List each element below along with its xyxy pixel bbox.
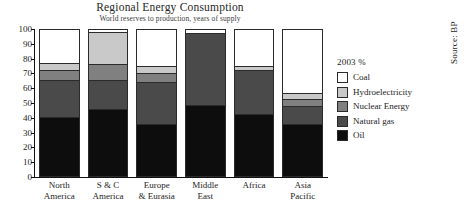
legend-swatch bbox=[337, 72, 348, 83]
stacked-bar[interactable] bbox=[282, 29, 323, 177]
x-axis-label: AsiaPacific bbox=[278, 180, 327, 210]
chart-subtitle: World reserves to production, years of s… bbox=[0, 14, 340, 23]
legend-item[interactable]: Nuclear Energy bbox=[337, 101, 447, 112]
plot-area: 0102030405060708090100 bbox=[35, 29, 327, 177]
bar-segment-natural-gas bbox=[235, 71, 274, 115]
bar-segment-oil bbox=[89, 110, 128, 176]
bar-slot[interactable] bbox=[181, 29, 230, 177]
bar-segment-oil bbox=[137, 125, 176, 176]
legend-label: Natural gas bbox=[353, 116, 394, 127]
x-axis-label-line: Europe bbox=[132, 180, 181, 191]
stacked-bar[interactable] bbox=[88, 29, 129, 177]
x-axis-label-line: America bbox=[84, 191, 133, 202]
x-axis-label-line: America bbox=[35, 191, 84, 202]
legend-title: 2003 % bbox=[337, 57, 447, 67]
x-axis-label-line: East bbox=[181, 191, 230, 202]
bar-slot[interactable] bbox=[35, 29, 84, 177]
bar-segment-nuclear-energy bbox=[283, 100, 322, 107]
bar-segment-nuclear-energy bbox=[137, 74, 176, 83]
legend-item[interactable]: Natural gas bbox=[337, 116, 447, 127]
x-axis-line bbox=[34, 177, 328, 178]
bar-segment-natural-gas bbox=[137, 83, 176, 125]
x-axis-label: NorthAmerica bbox=[35, 180, 84, 210]
legend-item[interactable]: Oil bbox=[337, 130, 447, 141]
bar-segment-oil bbox=[186, 106, 225, 176]
bar-segment-natural-gas bbox=[89, 81, 128, 110]
stacked-bar[interactable] bbox=[136, 29, 177, 177]
chart-container: Regional Energy Consumption World reserv… bbox=[0, 0, 470, 211]
legend-label: Nuclear Energy bbox=[353, 101, 410, 112]
x-axis-label-line: S & C bbox=[84, 180, 133, 191]
x-axis-label: Africa bbox=[230, 180, 279, 210]
bar-segment-natural-gas bbox=[40, 81, 79, 118]
chart-title: Regional Energy Consumption bbox=[0, 1, 340, 13]
x-axis-label-line: Middle bbox=[181, 180, 230, 191]
x-axis-label: MiddleEast bbox=[181, 180, 230, 210]
bar-segment-hydroelectricity bbox=[89, 33, 128, 65]
bar-segment-oil bbox=[283, 125, 322, 176]
stacked-bar[interactable] bbox=[234, 29, 275, 177]
bar-segment-coal bbox=[137, 30, 176, 67]
bar-segment-oil bbox=[40, 118, 79, 176]
x-axis-labels: NorthAmericaS & CAmericaEurope& EurasiaM… bbox=[35, 180, 327, 210]
bar-segment-nuclear-energy bbox=[40, 71, 79, 81]
bar-segment-nuclear-energy bbox=[89, 65, 128, 81]
legend-swatch bbox=[337, 116, 348, 127]
x-axis-label-line: Asia bbox=[278, 180, 327, 191]
legend-items: CoalHydroelectricityNuclear EnergyNatura… bbox=[337, 72, 447, 141]
x-axis-label-line: & Eurasia bbox=[132, 191, 181, 202]
legend-swatch bbox=[337, 101, 348, 112]
legend-swatch bbox=[337, 130, 348, 141]
x-axis-label-line: Pacific bbox=[278, 191, 327, 202]
chart-legend: 2003 % CoalHydroelectricityNuclear Energ… bbox=[337, 57, 447, 145]
y-axis-tick-label: 100 bbox=[19, 25, 33, 34]
legend-item[interactable]: Coal bbox=[337, 72, 447, 83]
x-axis-label-line: Africa bbox=[230, 180, 279, 191]
legend-swatch bbox=[337, 87, 348, 98]
bar-group bbox=[35, 29, 327, 177]
x-axis-label-line: North bbox=[35, 180, 84, 191]
stacked-bar[interactable] bbox=[185, 29, 226, 177]
legend-label: Oil bbox=[353, 130, 365, 141]
bar-segment-coal bbox=[235, 30, 274, 67]
bar-slot[interactable] bbox=[278, 29, 327, 177]
bar-slot[interactable] bbox=[230, 29, 279, 177]
legend-label: Coal bbox=[353, 72, 370, 83]
y-axis-tick-mark bbox=[31, 177, 35, 178]
bar-segment-natural-gas bbox=[186, 34, 225, 106]
bar-segment-coal bbox=[40, 30, 79, 64]
bar-segment-coal bbox=[283, 30, 322, 94]
bar-slot[interactable] bbox=[132, 29, 181, 177]
legend-item[interactable]: Hydroelectricity bbox=[337, 87, 447, 98]
legend-label: Hydroelectricity bbox=[353, 87, 412, 98]
bar-slot[interactable] bbox=[84, 29, 133, 177]
source-attribution: Source: BP bbox=[449, 21, 459, 64]
bar-segment-oil bbox=[235, 115, 274, 176]
bar-segment-hydroelectricity bbox=[137, 67, 176, 74]
bar-segment-hydroelectricity bbox=[40, 64, 79, 71]
bar-segment-natural-gas bbox=[283, 107, 322, 125]
x-axis-label: S & CAmerica bbox=[84, 180, 133, 210]
x-axis-label: Europe& Eurasia bbox=[132, 180, 181, 210]
stacked-bar[interactable] bbox=[39, 29, 80, 177]
